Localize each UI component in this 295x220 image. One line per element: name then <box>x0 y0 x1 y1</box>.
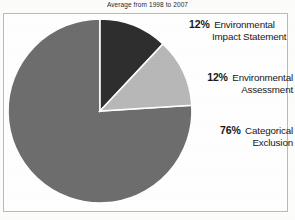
pie-chart-figure: Average from 1998 to 2007 12% Environmen… <box>0 0 295 220</box>
callout-label-line2: Assessment <box>176 85 293 96</box>
callout-label-line1: Environmental <box>214 19 275 30</box>
callout-environmental-impact-statement: 12% Environmental Impact Statement <box>189 14 293 43</box>
callout-label-line1: Environmental <box>232 72 293 83</box>
callout-percent: 12% <box>189 18 210 30</box>
callout-environmental-assessment: 12% Environmental Assessment <box>176 67 293 96</box>
callout-label-line1: Categorical <box>245 125 293 136</box>
callout-label-line2: Impact Statement <box>212 32 293 43</box>
chart-title: Average from 1998 to 2007 <box>0 1 295 8</box>
callout-label-line2: Exclusion <box>176 138 293 149</box>
callout-percent: 12% <box>207 71 228 83</box>
callout-percent: 76% <box>220 124 241 136</box>
callout-categorical-exclusion: 76% Categorical Exclusion <box>176 120 293 149</box>
